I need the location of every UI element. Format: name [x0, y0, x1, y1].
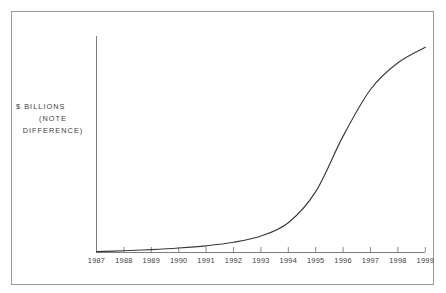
x-axis-ticks	[97, 246, 426, 252]
y-axis-label-line-3: DIFFERENCE)	[14, 125, 92, 137]
y-axis-label-line-2: (NOTE	[14, 113, 92, 125]
y-axis-label-line-1: $ BILLIONS	[14, 101, 92, 113]
y-axis-label: $ BILLIONS (NOTE DIFFERENCE)	[14, 101, 92, 138]
x-axis-label-1999: 1999	[408, 256, 442, 265]
plot-area	[0, 0, 446, 293]
data-series-line	[97, 47, 426, 251]
plot-canvas	[0, 0, 446, 293]
